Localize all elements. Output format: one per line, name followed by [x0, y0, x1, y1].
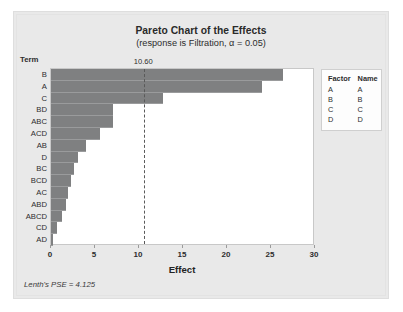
- reference-line: [144, 69, 145, 244]
- x-tick-mark: [50, 245, 51, 248]
- term-label-bcd: BCD: [31, 176, 47, 185]
- legend-cell-factor: A: [328, 85, 358, 95]
- legend-cell-name: B: [358, 95, 385, 105]
- term-label-abcd: ABCD: [26, 211, 47, 220]
- term-axis-header: Term: [20, 55, 39, 64]
- term-label-b: B: [42, 69, 47, 78]
- x-tick-label: 10: [134, 250, 143, 259]
- x-axis-title: Effect: [50, 264, 314, 275]
- term-label-ab: AB: [37, 140, 47, 149]
- table-row: CC: [328, 105, 385, 115]
- legend-cell-name: A: [358, 85, 385, 95]
- plot-area: [50, 68, 314, 245]
- legend-cell-name: C: [358, 105, 385, 115]
- bar-b: [51, 69, 283, 81]
- bar-ad: [51, 234, 53, 246]
- x-tick-mark: [270, 245, 271, 248]
- term-label-ac: AC: [36, 187, 47, 196]
- x-tick-label: 30: [310, 250, 319, 259]
- bar-ac: [51, 187, 68, 199]
- term-label-abd: ABD: [31, 199, 47, 208]
- bar-abc: [51, 116, 113, 128]
- table-row: BB: [328, 95, 385, 105]
- factor-legend-table: Factor Name AABBCCDD: [328, 74, 385, 125]
- bar-d: [51, 152, 78, 164]
- bar-a: [51, 81, 262, 93]
- x-tick-mark: [138, 245, 139, 248]
- bar-ab: [51, 140, 86, 152]
- bar-abd: [51, 199, 66, 211]
- bar-bcd: [51, 175, 71, 187]
- reference-line-label: 10.60: [134, 57, 153, 66]
- legend-cell-factor: C: [328, 105, 358, 115]
- term-label-ad: AD: [36, 235, 47, 244]
- term-label-cd: CD: [36, 223, 47, 232]
- bar-acd: [51, 128, 100, 140]
- x-tick-label: 0: [48, 250, 52, 259]
- factor-legend: Factor Name AABBCCDD: [321, 69, 382, 131]
- x-tick-label: 25: [266, 250, 275, 259]
- bar-c: [51, 93, 163, 105]
- bar-abcd: [51, 211, 62, 223]
- bar-bc: [51, 163, 74, 175]
- x-tick-mark: [182, 245, 183, 248]
- lenth-pse-footnote: Lenth's PSE = 4.125: [24, 280, 95, 289]
- term-label-a: A: [42, 81, 47, 90]
- legend-cell-factor: D: [328, 115, 358, 125]
- x-tick-label: 5: [92, 250, 96, 259]
- legend-cell-factor: B: [328, 95, 358, 105]
- bar-cd: [51, 222, 57, 234]
- x-tick-label: 15: [178, 250, 187, 259]
- x-tick-mark: [226, 245, 227, 248]
- table-row: AA: [328, 85, 385, 95]
- bar-bd: [51, 104, 113, 116]
- legend-cell-name: D: [358, 115, 385, 125]
- legend-header-name: Name: [358, 74, 385, 85]
- term-label-bc: BC: [36, 164, 47, 173]
- x-tick-mark: [314, 245, 315, 248]
- x-tick-mark: [94, 245, 95, 248]
- factor-legend-body: AABBCCDD: [328, 85, 385, 125]
- table-header-row: Factor Name: [328, 74, 385, 85]
- term-axis-labels: BACBDABCACDABDBCBCDACABDABCDCDAD: [14, 68, 47, 245]
- term-label-abc: ABC: [31, 117, 47, 126]
- x-tick-label: 20: [222, 250, 231, 259]
- chart-card: Pareto Chart of the Effects (response is…: [13, 11, 389, 299]
- legend-header-factor: Factor: [328, 74, 358, 85]
- term-label-bd: BD: [36, 105, 47, 114]
- plot-wrapper: Term BACBDABCACDABDBCBCDACABDABCDCDAD 10…: [14, 12, 388, 298]
- table-row: DD: [328, 115, 385, 125]
- term-label-acd: ACD: [31, 128, 47, 137]
- term-label-c: C: [41, 93, 47, 102]
- term-label-d: D: [41, 152, 47, 161]
